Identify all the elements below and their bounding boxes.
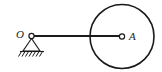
diagram-canvas: O A <box>0 0 162 72</box>
label-origin-O: O <box>16 28 24 40</box>
ground-hatching-icon <box>19 52 43 57</box>
hub-joint-A <box>119 34 124 39</box>
pin-support-triangle <box>23 39 40 52</box>
mechanism-diagram-figure: O A <box>0 0 162 72</box>
pin-joint-O <box>29 33 34 38</box>
label-center-A: A <box>128 30 136 42</box>
